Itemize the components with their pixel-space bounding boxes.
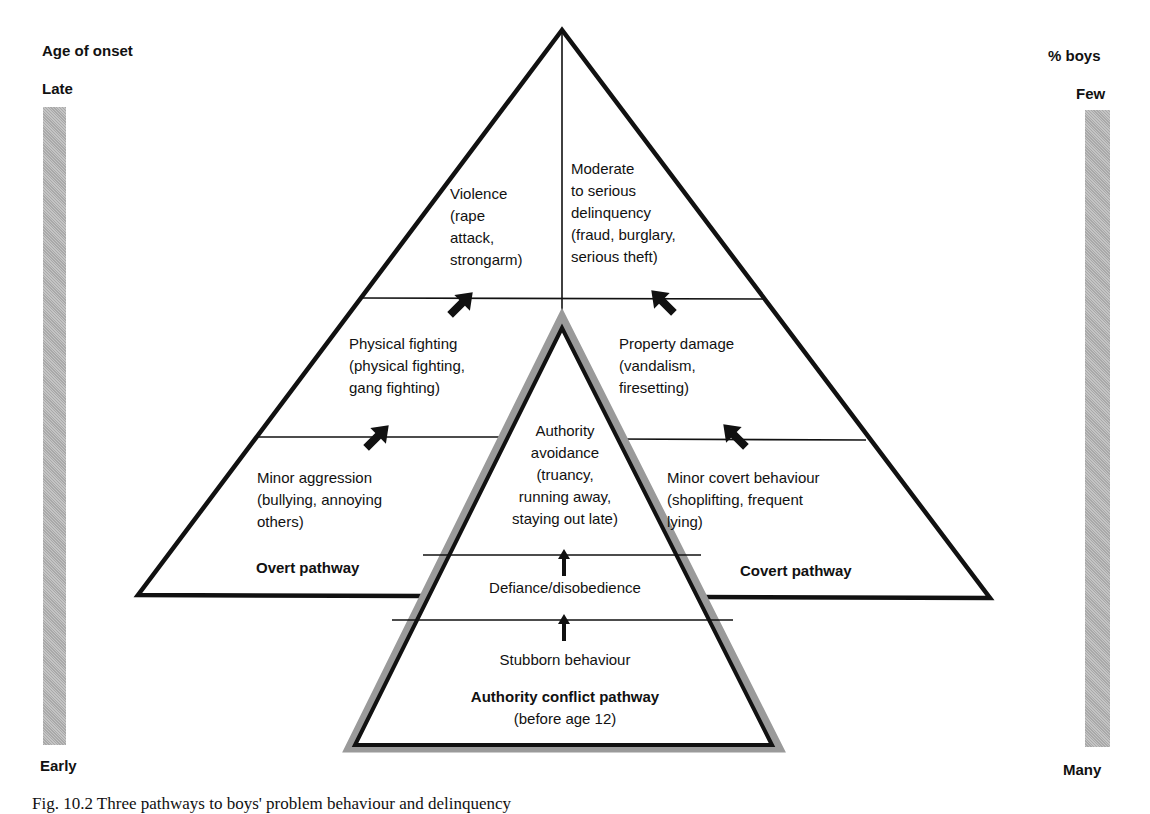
stage-example: strongarm) <box>450 249 523 271</box>
stage-example: firesetting) <box>619 377 734 399</box>
overt-stage-minor-aggression: Minor aggression (bullying, annoying oth… <box>257 467 382 533</box>
covert-stage-minor-covert: Minor covert behaviour (shoplifting, fre… <box>667 467 820 533</box>
covert-stage-serious-delinquency: Moderate to serious delinquency (fraud, … <box>571 158 676 268</box>
stage-name: Minor covert behaviour <box>667 467 820 489</box>
overt-stage-physical-fighting: Physical fighting (physical fighting, ga… <box>349 333 465 399</box>
stage-example: others) <box>257 511 382 533</box>
overt-pathway-title: Overt pathway <box>256 557 359 579</box>
stage-example: (shoplifting, frequent <box>667 489 820 511</box>
covert-pathway-title: Covert pathway <box>740 560 852 582</box>
stage-example: to serious <box>571 180 676 202</box>
stage-name: Moderate <box>571 158 676 180</box>
figure-caption: Fig. 10.2 Three pathways to boys' proble… <box>32 794 511 814</box>
stage-example: (bullying, annoying <box>257 489 382 511</box>
stage-example: (vandalism, <box>619 355 734 377</box>
authority-stage-defiance: Defiance/disobedience <box>440 577 690 599</box>
stage-example: (truancy, <box>480 464 650 486</box>
stage-example: lying) <box>667 511 820 533</box>
stage-example: staying out late) <box>480 508 650 530</box>
stage-example: (physical fighting, <box>349 355 465 377</box>
stage-example: gang fighting) <box>349 377 465 399</box>
stage-example: avoidance <box>480 442 650 464</box>
authority-stage-stubborn: Stubborn behaviour <box>440 649 690 671</box>
stage-name: Minor aggression <box>257 467 382 489</box>
stage-example: attack, <box>450 227 523 249</box>
stage-name: Physical fighting <box>349 333 465 355</box>
authority-stage-avoidance: Authority avoidance (truancy, running aw… <box>480 420 650 530</box>
overt-stage-violence: Violence (rape attack, strongarm) <box>450 183 523 271</box>
stage-example: serious theft) <box>571 246 676 268</box>
stage-example: running away, <box>480 486 650 508</box>
stage-name: Violence <box>450 183 523 205</box>
stage-example: (rape <box>450 205 523 227</box>
stage-name: Property damage <box>619 333 734 355</box>
stage-name: Authority <box>480 420 650 442</box>
covert-stage-property-damage: Property damage (vandalism, firesetting) <box>619 333 734 399</box>
authority-pathway-subtitle: (before age 12) <box>440 708 690 730</box>
stage-example: (fraud, burglary, <box>571 224 676 246</box>
upper-divider <box>361 298 764 299</box>
authority-pathway-title: Authority conflict pathway <box>410 686 720 708</box>
stage-example: delinquency <box>571 202 676 224</box>
